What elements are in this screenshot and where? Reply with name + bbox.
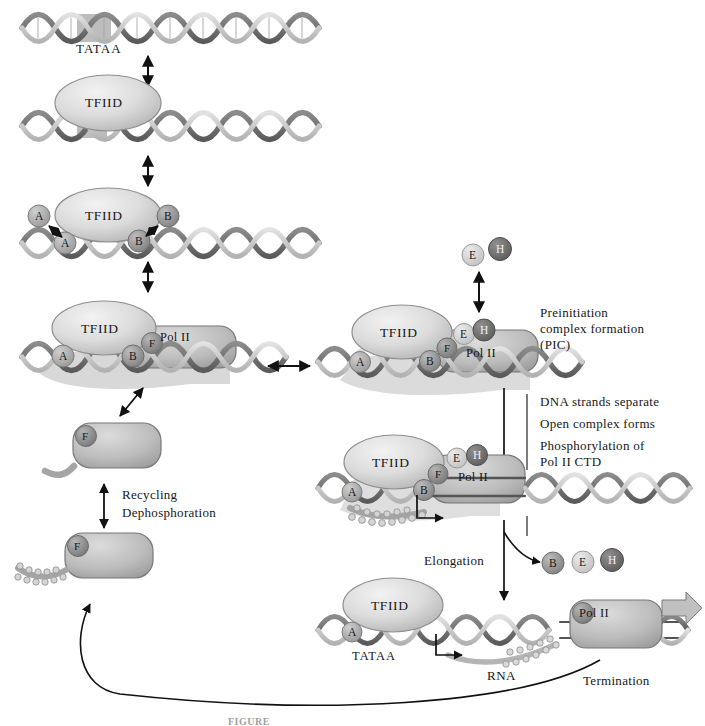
- step-label-phosphorylation: Phosphorylation of: [540, 438, 645, 454]
- tfiie-free-label: E: [469, 249, 476, 261]
- tfiid-label-6: TFIID: [372, 455, 410, 471]
- figure-canvas: TATAA TFIID TFIID A B A B TFIID Pol II A…: [0, 0, 705, 726]
- dephosphoration-label: Dephosphoration: [122, 505, 216, 521]
- tfiib-bound-label: B: [135, 235, 143, 247]
- tfiid-label-4: TFIID: [81, 321, 119, 337]
- tfiid-label-3: TFIID: [85, 208, 123, 224]
- tfiie-released-label: E: [579, 556, 586, 568]
- tfiia-label-6: A: [348, 486, 357, 498]
- tfiia-label-4: A: [59, 350, 68, 362]
- tfiif-label-8: F: [82, 430, 88, 442]
- tfiih-label-6: H: [473, 449, 482, 461]
- ctd-tail-8: [45, 466, 74, 475]
- tfiid-label-2: TFIID: [85, 95, 123, 111]
- figure-caption: FIGURE: [228, 716, 270, 726]
- termination-label: Termination: [583, 673, 650, 689]
- tfiia-free-label: A: [35, 210, 44, 222]
- tfiia-label-5: A: [356, 356, 365, 368]
- tfiih-free-label: H: [496, 243, 505, 255]
- rna-label: RNA: [487, 668, 516, 684]
- pic-label-line2: complex formation: [540, 321, 644, 337]
- tataa-label-top: TATAA: [76, 41, 122, 57]
- stage-9-phospho-polii: [15, 533, 153, 585]
- tfiif-label-5: F: [444, 342, 450, 354]
- step-label-open-complex: Open complex forms: [540, 416, 655, 432]
- tfiib-released-label: B: [549, 557, 557, 569]
- tfiih-released-label: H: [608, 554, 617, 566]
- arrow-factor-release: [504, 532, 540, 562]
- polii-label-5: Pol II: [466, 346, 496, 361]
- tfiib-label-5: B: [426, 355, 434, 367]
- tfiia-bound-label: A: [61, 237, 70, 249]
- tfiie-label-5: E: [460, 328, 467, 340]
- tataa-label-bottom: TATAA: [352, 649, 396, 664]
- step-label-dna-separate: DNA strands separate: [540, 394, 659, 410]
- tfiib-label-6: B: [420, 484, 428, 496]
- tfiib-label-4: B: [129, 350, 137, 362]
- tfiid-label-7: TFIID: [371, 598, 409, 614]
- step-label-polii-ctd: Pol II CTD: [540, 454, 602, 470]
- tfiif-label-4: F: [149, 337, 155, 349]
- polii-label-6: Pol II: [458, 470, 488, 485]
- tfiib-free-label: B: [164, 210, 172, 222]
- elongation-label: Elongation: [424, 553, 484, 569]
- stage-2-complex: [22, 75, 319, 140]
- pic-label-line3: (PIC): [540, 337, 570, 353]
- tfiif-label-6: F: [435, 468, 441, 480]
- tfiih-label-5: H: [480, 324, 489, 336]
- stage-1-dna: [22, 14, 319, 42]
- tfiid-label-5: TFIID: [380, 325, 418, 341]
- tfiia-label-7: A: [348, 626, 357, 638]
- tfiif-label-9: F: [74, 540, 80, 552]
- polii-label-4: Pol II: [160, 330, 190, 345]
- arrow-stage4-to-recycling: [120, 388, 143, 416]
- stage-8-dephospho-polii: [45, 423, 161, 475]
- nascent-rna-strand: [448, 644, 556, 662]
- recycling-label: Recycling: [122, 487, 177, 503]
- pic-label-line1: Preinitiation: [540, 305, 608, 321]
- tfiie-label-6: E: [453, 452, 460, 464]
